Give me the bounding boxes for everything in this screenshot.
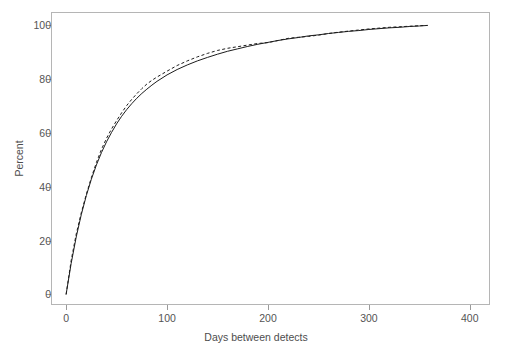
y-axis-title: Percent	[14, 12, 28, 305]
series-line-empirical	[66, 25, 427, 294]
x-tick-mark	[66, 305, 67, 310]
x-tick-label: 100	[158, 313, 176, 324]
y-tick-label: 40	[39, 181, 51, 192]
x-tick-label: 0	[63, 313, 69, 324]
y-tick-label: 60	[39, 128, 51, 139]
x-tick-label: 400	[461, 313, 479, 324]
x-tick-mark	[470, 305, 471, 310]
series-line-fitted	[66, 25, 427, 294]
x-tick-mark	[167, 305, 168, 310]
y-tick-label: 100	[33, 20, 51, 31]
x-tick-mark	[268, 305, 269, 310]
x-tick-label: 300	[360, 313, 378, 324]
chart-container: 0100200300400 020406080100 Days between …	[0, 0, 512, 351]
x-axis-title: Days between detects	[0, 332, 512, 343]
x-tick-mark	[369, 305, 370, 310]
y-tick-label: 20	[39, 235, 51, 246]
y-tick-label: 80	[39, 74, 51, 85]
y-tick-label: 0	[45, 289, 51, 300]
plot-canvas	[51, 12, 490, 305]
x-tick-label: 200	[259, 313, 277, 324]
